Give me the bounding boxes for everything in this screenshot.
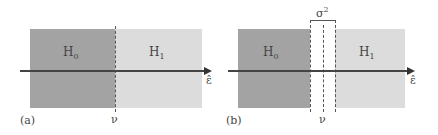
x-axis (20, 70, 205, 72)
threshold-label: ν (319, 113, 326, 126)
h1-region (335, 29, 405, 108)
threshold-label: ν (111, 113, 118, 126)
gap-bracket (310, 20, 335, 21)
h0-region (30, 29, 115, 108)
gap-right-line (335, 20, 336, 112)
h0-region (238, 29, 310, 108)
x-axis (228, 70, 408, 72)
panel-label: (b) (226, 114, 242, 127)
h0-label: H0 (263, 45, 279, 61)
gap-left-line (310, 20, 311, 112)
gap-label: σ2 (316, 5, 329, 20)
h1-label: H1 (149, 45, 165, 61)
h1-region (115, 29, 202, 108)
axis-label: ε̂ (410, 74, 416, 87)
threshold-line (323, 25, 324, 112)
threshold-line (115, 26, 116, 112)
h0-label: H0 (63, 45, 79, 61)
h1-label: H1 (359, 45, 375, 61)
axis-label: ε̂ (206, 74, 212, 87)
panel-label: (a) (20, 114, 35, 127)
